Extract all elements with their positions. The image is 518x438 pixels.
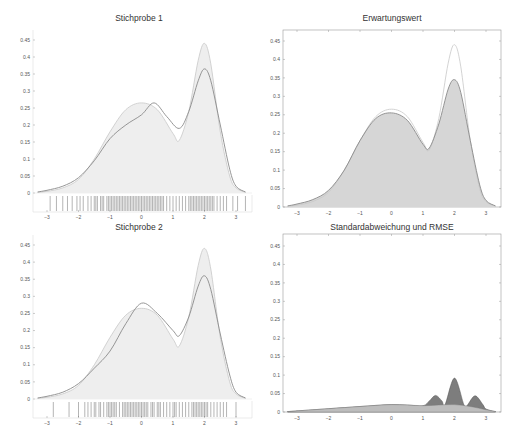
x-tick-label: 3	[235, 214, 238, 220]
y-tick-label: 0.35	[270, 75, 280, 81]
y-tick-label: 0.05	[270, 185, 280, 191]
x-tick-label: −3	[44, 420, 50, 426]
y-tick-label: 0.25	[270, 316, 280, 322]
x-tick-label: 3	[235, 420, 238, 426]
y-tick-label: 0.15	[270, 353, 280, 359]
x-tick-label: −3	[44, 214, 50, 220]
density-fill	[288, 80, 496, 207]
y-tick-label: 0.25	[270, 111, 280, 117]
x-tick-label: 0	[390, 210, 393, 216]
plot-area: 00.050.10.150.20.250.30.350.40.45−3−2−10…	[20, 30, 252, 220]
y-tick-label: 0.15	[20, 139, 30, 145]
y-tick-label: 0.3	[23, 293, 30, 299]
x-tick-label: 2	[203, 214, 206, 220]
y-tick-label: 0.25	[20, 310, 30, 316]
x-tick-label: 2	[203, 420, 206, 426]
panel-title: Standardabweichung und RMSE	[330, 222, 454, 232]
y-tick-label: 0.35	[20, 71, 30, 77]
y-tick-label: 0	[277, 204, 280, 210]
plot-area: 00.050.10.150.20.250.30.350.40.45−3−2−10…	[20, 235, 252, 426]
x-tick-label: 1	[422, 210, 425, 216]
x-tick-label: 1	[422, 415, 425, 421]
panel-stichprobe-2: Stichprobe 2 00.050.10.150.20.250.30.350…	[20, 222, 252, 426]
x-tick-label: 3	[485, 210, 488, 216]
y-tick-label: 0.1	[23, 156, 30, 162]
x-tick-label: 1	[172, 420, 175, 426]
x-tick-label: 3	[485, 415, 488, 421]
y-tick-label: 0.2	[23, 327, 30, 333]
y-tick-label: 0.45	[270, 38, 280, 44]
density-fill	[38, 248, 246, 399]
y-tick-label: 0.05	[20, 173, 30, 179]
panel-title: Stichprobe 1	[115, 13, 163, 23]
std-dev-area	[288, 405, 496, 412]
x-tick-label: 0	[140, 420, 143, 426]
y-tick-label: 0.4	[23, 259, 30, 265]
y-tick-label: 0.2	[273, 335, 280, 341]
y-tick-label: 0.4	[23, 54, 30, 60]
x-tick-label: −3	[294, 210, 300, 216]
x-tick-label: 2	[453, 210, 456, 216]
density-fill	[38, 43, 246, 193]
panel-stichprobe-1: Stichprobe 1 00.050.10.150.20.250.30.350…	[20, 13, 252, 220]
x-tick-label: −1	[107, 420, 113, 426]
y-tick-label: 0	[27, 190, 30, 196]
y-tick-label: 0.05	[270, 390, 280, 396]
y-tick-label: 0.3	[273, 298, 280, 304]
y-tick-label: 0.1	[273, 167, 280, 173]
y-tick-label: 0.1	[23, 361, 30, 367]
x-tick-label: −1	[357, 210, 363, 216]
y-tick-label: 0.3	[23, 88, 30, 94]
figure: Stichprobe 1 00.050.10.150.20.250.30.350…	[0, 0, 518, 438]
x-tick-label: −1	[357, 415, 363, 421]
panel-erwartungswert: Erwartungswert 00.050.10.150.20.250.30.3…	[270, 13, 501, 216]
y-tick-label: 0.3	[273, 93, 280, 99]
x-tick-label: −2	[76, 214, 82, 220]
x-tick-label: −1	[107, 214, 113, 220]
x-tick-label: −2	[326, 415, 332, 421]
y-tick-label: 0.15	[20, 344, 30, 350]
x-tick-label: 1	[172, 214, 175, 220]
y-tick-label: 0.2	[23, 122, 30, 128]
plot-area: 00.050.10.150.20.250.30.350.40.45−3−2−10…	[270, 30, 501, 216]
y-tick-label: 0.45	[20, 37, 30, 43]
y-tick-label: 0.45	[20, 242, 30, 248]
x-tick-label: −2	[76, 420, 82, 426]
x-tick-label: 0	[140, 214, 143, 220]
y-tick-label: 0.25	[20, 105, 30, 111]
x-tick-label: 2	[453, 415, 456, 421]
y-tick-label: 0	[277, 409, 280, 415]
y-tick-label: 0.1	[273, 372, 280, 378]
panel-title: Erwartungswert	[362, 13, 422, 23]
panel-title: Stichprobe 2	[115, 222, 163, 232]
y-tick-label: 0.4	[273, 261, 280, 267]
panel-standardabweichung-rmse: Standardabweichung und RMSE 00.050.10.15…	[270, 222, 501, 421]
y-tick-label: 0.2	[273, 130, 280, 136]
y-tick-label: 0.45	[270, 243, 280, 249]
x-tick-label: 0	[390, 415, 393, 421]
y-tick-label: 0	[27, 396, 30, 402]
y-tick-label: 0.15	[270, 148, 280, 154]
x-tick-label: −3	[294, 415, 300, 421]
plot-area: 00.050.10.150.20.250.30.350.40.45−3−2−10…	[270, 234, 501, 421]
y-tick-label: 0.35	[270, 280, 280, 286]
y-tick-label: 0.4	[273, 56, 280, 62]
y-tick-label: 0.35	[20, 276, 30, 282]
axes-box	[283, 234, 501, 412]
x-tick-label: −2	[326, 210, 332, 216]
y-tick-label: 0.05	[20, 379, 30, 385]
